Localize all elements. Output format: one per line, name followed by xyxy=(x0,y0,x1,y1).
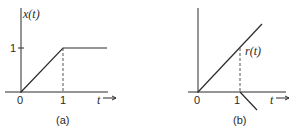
x-axis-label: t xyxy=(97,93,101,107)
caption-b: (b) xyxy=(233,114,246,126)
arrow-icon xyxy=(103,96,116,100)
origin-label: 0 xyxy=(17,94,23,106)
ramp-r-of-t xyxy=(198,24,262,92)
curve-label: r(t) xyxy=(245,44,261,58)
x-tick-label: 1 xyxy=(60,94,66,106)
x-tick-label: 1 xyxy=(234,94,240,106)
x-axis-label: t xyxy=(270,93,274,107)
y-tick-label: 1 xyxy=(10,42,16,54)
figure: x(t) 1 0 1 t (a) r(t) 0 1 t (b) xyxy=(0,0,299,130)
signal-x-of-t xyxy=(21,48,107,92)
negative-ramp xyxy=(240,92,257,110)
origin-label: 0 xyxy=(194,94,200,106)
arrow-icon xyxy=(276,96,289,100)
panel-b: r(t) 0 1 t (b) xyxy=(188,8,289,126)
caption-a: (a) xyxy=(56,114,69,126)
y-axis-label: x(t) xyxy=(22,7,40,21)
panel-a: x(t) 1 0 1 t (a) xyxy=(5,7,116,126)
